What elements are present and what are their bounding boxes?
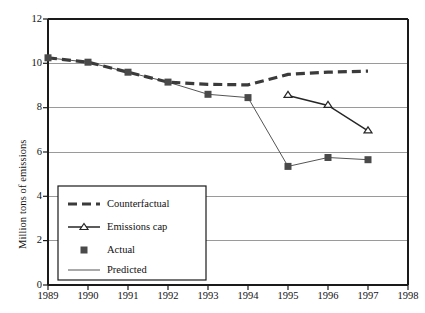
marker-emissions-cap-1995 <box>284 91 292 97</box>
series-line-predicted <box>48 58 368 167</box>
series-markers-actual <box>45 54 372 170</box>
marker-actual-1994 <box>245 94 252 101</box>
legend-swatch-actual <box>81 247 88 254</box>
legend-label-predicted: Predicted <box>107 264 147 275</box>
marker-actual-1989 <box>45 54 52 61</box>
legend-label-counterfactual: Counterfactual <box>107 198 169 209</box>
marker-actual-1991 <box>125 69 132 76</box>
legend-label-emissions-cap: Emissions cap <box>107 221 167 232</box>
legend-label-actual: Actual <box>107 244 135 255</box>
series-line-counterfactual <box>48 58 368 85</box>
x-axis-ticks <box>48 285 408 290</box>
marker-actual-1995 <box>285 163 292 170</box>
marker-actual-1992 <box>165 79 172 86</box>
marker-actual-1997 <box>365 156 372 163</box>
plot-area <box>0 0 425 313</box>
marker-actual-1990 <box>85 59 92 66</box>
emissions-line-chart: Million tons of emissions 12 10 8 6 4 2 … <box>0 0 425 313</box>
marker-actual-1996 <box>325 154 332 161</box>
marker-actual-1993 <box>205 91 212 98</box>
